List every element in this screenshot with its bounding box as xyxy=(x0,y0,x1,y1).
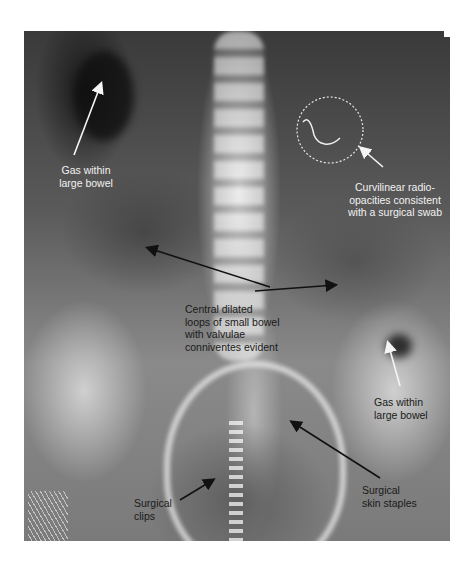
annotation-skin-staples: Surgical skin staples xyxy=(362,484,442,509)
annotation-arrows xyxy=(0,0,472,568)
annotation-gas-large-bowel-upper: Gas within large bowel xyxy=(46,164,126,189)
swab-highlight-circle xyxy=(297,97,363,163)
annotation-gas-large-bowel-lower: Gas within large bowel xyxy=(374,396,444,421)
annotation-surgical-swab: Curvilinear radio- opacities consistent … xyxy=(335,181,455,219)
annotation-surgical-clips: Surgical clips xyxy=(134,497,194,522)
annotation-small-bowel-loops: Central dilated loops of small bowel wit… xyxy=(185,303,305,353)
swab-marker xyxy=(303,120,340,145)
